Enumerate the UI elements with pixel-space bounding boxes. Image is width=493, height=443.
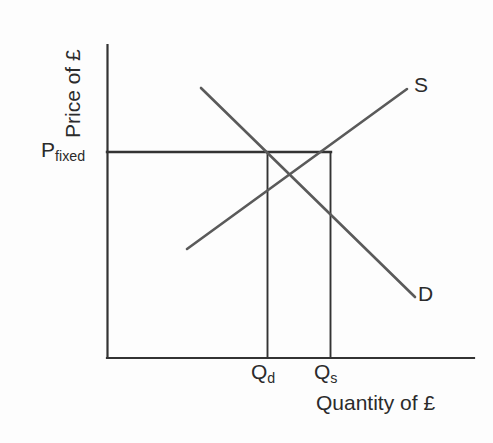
p-fixed-axis-label: Pfixed xyxy=(41,139,85,160)
supply-curve xyxy=(187,89,407,249)
p-fixed-subscript: fixed xyxy=(55,148,85,164)
qd-base: Q xyxy=(251,360,267,383)
p-fixed-base: P xyxy=(41,138,55,161)
y-axis-title: Price of £ xyxy=(62,49,83,138)
demand-curve xyxy=(201,88,415,297)
qs-axis-label: Qs xyxy=(314,361,337,382)
qd-axis-label: Qd xyxy=(251,361,275,382)
supply-demand-figure: Price of £ Quantity of £ Pfixed Qd Qs S … xyxy=(0,0,493,443)
qd-subscript: d xyxy=(267,370,275,386)
x-axis-title: Quantity of £ xyxy=(316,392,435,413)
demand-curve-label: D xyxy=(418,283,433,304)
qs-subscript: s xyxy=(330,370,337,386)
qs-base: Q xyxy=(314,360,330,383)
supply-curve-label: S xyxy=(414,74,428,95)
